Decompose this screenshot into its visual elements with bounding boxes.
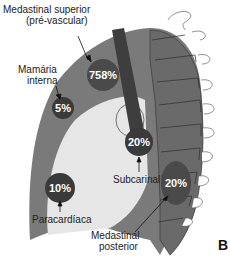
label-mamaria-line2: interna bbox=[18, 75, 58, 86]
panel-letter: B bbox=[218, 237, 228, 253]
label-mamaria-line1: Mamária bbox=[18, 64, 58, 75]
label-superior-line2: (pré-vascular) bbox=[26, 15, 88, 26]
label-posterior-line1: Medastinal bbox=[91, 230, 139, 241]
label-posterior-line2: posterior bbox=[91, 241, 139, 252]
label-paracardiaca: Paracardíaca bbox=[32, 214, 91, 225]
value-mamaria: 5% bbox=[55, 102, 71, 114]
value-superior: 758% bbox=[89, 69, 117, 81]
label-superior-line1: Medastinal superior bbox=[3, 4, 90, 15]
label-posterior: Medastinal posterior bbox=[91, 230, 139, 252]
value-subcarinal: 20% bbox=[128, 136, 150, 148]
label-subcarinal: Subcarinal bbox=[113, 174, 160, 185]
value-posterior: 20% bbox=[165, 177, 187, 189]
value-paracardiaca: 10% bbox=[49, 182, 71, 194]
label-mamaria: Mamária interna bbox=[18, 64, 58, 86]
